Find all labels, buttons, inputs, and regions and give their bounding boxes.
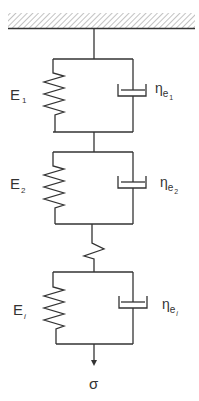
spring-icon xyxy=(44,152,64,224)
series-spring-icon xyxy=(84,224,104,272)
dashpot-subsubscript: 2 xyxy=(174,188,178,195)
spring-symbol: E xyxy=(10,86,20,103)
dashpot-subscript: e xyxy=(168,182,174,193)
spring-label-2: E2 xyxy=(10,176,25,192)
dashpot-subsubscript: i xyxy=(176,310,178,317)
dashpot-symbol: η xyxy=(160,174,168,190)
dashpot-label-1: ηe1 xyxy=(155,80,173,96)
spring-subscript: 2 xyxy=(21,186,25,195)
spring-subscript: 1 xyxy=(22,96,26,105)
dashpot-icon xyxy=(118,59,146,132)
dashpot-icon xyxy=(118,152,146,224)
kelvin-element-2 xyxy=(44,152,146,224)
spring-subscript: i xyxy=(24,312,26,321)
support-hatching xyxy=(8,13,195,28)
dashpot-subsubscript: 1 xyxy=(169,94,173,101)
stress-label: σ xyxy=(89,376,98,391)
dashpot-icon xyxy=(119,272,147,344)
dashpot-label-2: ηe2 xyxy=(160,174,178,190)
dashpot-symbol: η xyxy=(155,80,163,96)
dashpot-symbol: η xyxy=(162,296,170,312)
spring-symbol: E xyxy=(10,175,20,192)
spring-icon xyxy=(44,59,64,132)
kelvin-element-i xyxy=(44,272,147,344)
fixed-support xyxy=(8,13,195,29)
dashpot-label-i: ηei xyxy=(162,296,178,312)
kelvin-element-1 xyxy=(44,59,146,132)
spring-icon xyxy=(44,272,64,344)
spring-label-1: E1 xyxy=(10,87,26,103)
spring-label-i: Ei xyxy=(13,302,26,318)
kelvin-voigt-diagram xyxy=(0,0,199,401)
dashpot-subscript: e xyxy=(170,304,176,315)
dashpot-subscript: e xyxy=(163,88,169,99)
spring-symbol: E xyxy=(13,301,23,318)
load-arrow-icon xyxy=(91,344,97,366)
